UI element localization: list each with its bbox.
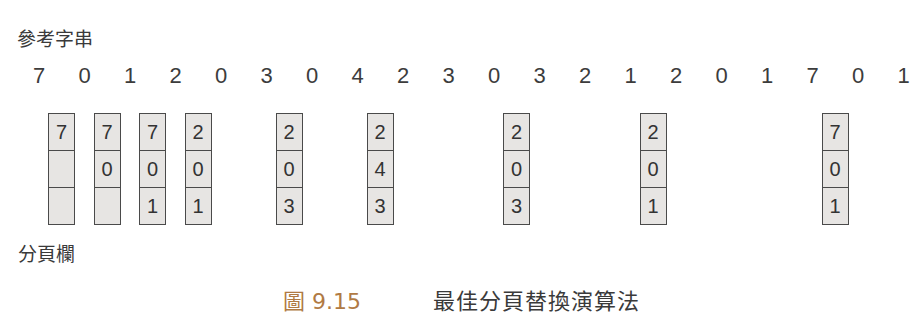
frame-cell xyxy=(49,151,74,188)
frame-cell: 2 xyxy=(368,114,393,151)
frame-column: 203 xyxy=(503,113,530,225)
reference-string-label: 參考字串 xyxy=(17,24,93,51)
frame-cell: 7 xyxy=(823,114,848,151)
reference-item: 0 xyxy=(297,62,327,90)
frame-cell: 7 xyxy=(140,114,165,151)
reference-item: 7 xyxy=(798,62,828,90)
reference-item: 0 xyxy=(206,62,236,90)
reference-item: 7 xyxy=(24,62,54,90)
frame-cell: 0 xyxy=(95,151,120,188)
figure-caption: 圖 9.15 最佳分頁替換演算法 xyxy=(0,283,924,313)
frame-cell: 1 xyxy=(186,188,211,224)
frame-cell: 7 xyxy=(95,114,120,151)
frame-cell: 0 xyxy=(186,151,211,188)
figure-title: 最佳分頁替換演算法 xyxy=(433,283,640,315)
frame-cell: 0 xyxy=(641,151,666,188)
frame-cell: 0 xyxy=(504,151,529,188)
frame-cell: 7 xyxy=(49,114,74,151)
frame-column: 70 xyxy=(94,113,121,225)
frame-column: 201 xyxy=(640,113,667,225)
frame-cell: 3 xyxy=(504,188,529,224)
reference-item: 2 xyxy=(161,62,191,90)
reference-item: 3 xyxy=(525,62,555,90)
reference-item: 0 xyxy=(70,62,100,90)
reference-item: 0 xyxy=(479,62,509,90)
frame-column: 201 xyxy=(185,113,212,225)
frame-column: 701 xyxy=(822,113,849,225)
figure-number: 圖 9.15 xyxy=(283,283,361,315)
reference-item: 4 xyxy=(343,62,373,90)
frame-cell xyxy=(95,188,120,224)
frame-cell: 2 xyxy=(504,114,529,151)
frame-cell: 4 xyxy=(368,151,393,188)
frame-column: 701 xyxy=(139,113,166,225)
frame-column: 243 xyxy=(367,113,394,225)
frame-cell: 0 xyxy=(277,151,302,188)
reference-item: 1 xyxy=(616,62,646,90)
frame-cell: 3 xyxy=(368,188,393,224)
page-frames-label: 分頁欄 xyxy=(18,239,75,266)
reference-item: 1 xyxy=(752,62,782,90)
reference-item: 3 xyxy=(252,62,282,90)
reference-item: 2 xyxy=(661,62,691,90)
reference-item: 0 xyxy=(843,62,873,90)
frame-cell: 2 xyxy=(277,114,302,151)
frame-column: 7 xyxy=(48,113,75,225)
reference-item: 3 xyxy=(434,62,464,90)
reference-item: 1 xyxy=(115,62,145,90)
frame-cell: 0 xyxy=(823,151,848,188)
reference-item: 0 xyxy=(707,62,737,90)
reference-item: 1 xyxy=(889,62,919,90)
reference-item: 2 xyxy=(570,62,600,90)
frame-column: 203 xyxy=(276,113,303,225)
reference-item: 2 xyxy=(388,62,418,90)
frame-cell: 1 xyxy=(641,188,666,224)
frame-cell: 3 xyxy=(277,188,302,224)
frame-cell: 1 xyxy=(823,188,848,224)
frame-cell xyxy=(49,188,74,224)
frame-cell: 2 xyxy=(641,114,666,151)
frame-cell: 0 xyxy=(140,151,165,188)
frame-cell: 2 xyxy=(186,114,211,151)
frame-cell: 1 xyxy=(140,188,165,224)
reference-string-row: 70120304230321201701 xyxy=(0,62,924,90)
